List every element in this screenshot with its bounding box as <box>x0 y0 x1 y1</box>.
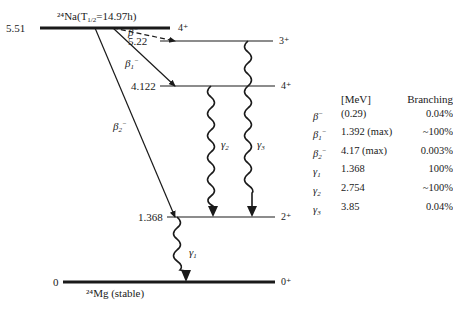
table-row: β2− 4.17 (max) 0.003% <box>313 145 453 164</box>
gamma1-wave <box>174 217 187 271</box>
gamma3-wave <box>245 41 253 207</box>
table-row: β1− 1.392 (max) ~100% <box>313 126 453 145</box>
level-energy-4.122: 4.122 <box>131 80 156 92</box>
table-row: β− (0.29) 0.04% <box>313 108 453 127</box>
header-energy: [MeV] <box>341 93 403 106</box>
table-row: γ3 3.85 0.04% <box>313 201 453 220</box>
level-energy-1.368: 1.368 <box>138 211 163 223</box>
gamma2-wave <box>208 86 215 207</box>
daughter-label: ²⁴Mg (stable) <box>86 287 144 299</box>
branching-table: [MeV] Branching β− (0.29) 0.04% β1− 1.39… <box>313 93 453 219</box>
level-spin-5.22: 3⁺ <box>279 35 289 47</box>
parent-nuclide-label: ²⁴Na(T1/2=14.97h) <box>57 10 136 26</box>
level-spin-4.122: 4⁺ <box>281 80 291 92</box>
level-spin-1.368: 2⁺ <box>281 211 291 223</box>
header-branching: Branching <box>403 93 453 106</box>
gamma3-label: γ3 <box>257 138 265 154</box>
parent-energy: 5.51 <box>6 22 25 34</box>
level-energy-0: 0 <box>53 276 59 288</box>
gamma1-label: γ1 <box>189 246 197 262</box>
beta-label: β− <box>128 24 138 38</box>
table-row: γ1 1.368 100% <box>313 163 453 182</box>
gamma2-label: γ2 <box>221 138 229 154</box>
beta2-label: β2− <box>113 118 127 136</box>
parent-nuclide: ²⁴Na <box>57 10 77 22</box>
level-spin-0: 0⁺ <box>281 276 291 288</box>
table-row: γ2 2.754 ~100% <box>313 182 453 201</box>
parent-spin: 4⁺ <box>178 22 188 34</box>
table-header: [MeV] Branching <box>313 93 453 106</box>
beta1-label: β1− <box>125 55 139 73</box>
